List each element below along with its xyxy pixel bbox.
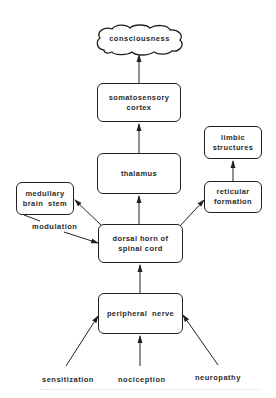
node-somatosensory-cortex: somatosensorycortex (97, 83, 181, 122)
node-text: thalamus (121, 169, 157, 179)
modulation-line (24, 215, 40, 221)
node-text: reticular (214, 187, 252, 197)
node-text: brain stem (23, 199, 67, 209)
node-reticular-formation: reticularformation (204, 181, 262, 213)
node-text: somatosensory (109, 93, 170, 103)
node-text: cortex (109, 103, 170, 113)
node-text: limbic (213, 133, 254, 143)
label-modulation: modulation (32, 222, 77, 231)
arrow-dorsal-to-reticular (180, 200, 204, 226)
arrow-neuropathy-to-peripheral (183, 315, 218, 365)
label-sensitization: sensitization (42, 375, 94, 384)
node-text: medullary (23, 189, 67, 199)
node-text: spinal cord (112, 244, 168, 254)
arrow-modulation-to-dorsal (64, 232, 98, 243)
label-neuropathy: neuropathy (195, 373, 241, 382)
node-text: formation (214, 197, 252, 207)
node-consciousness: consciousness (97, 34, 182, 43)
label-nociception: nociception (118, 375, 166, 384)
node-text: dorsal horn of (112, 234, 168, 244)
node-limbic-structures: limbicstructures (204, 126, 262, 159)
node-medullary-brain-stem: medullarybrain stem (16, 182, 74, 215)
arrow-sensitization-to-peripheral (66, 316, 98, 366)
node-peripheral-nerve: peripheral nerve (98, 293, 183, 334)
node-dorsal-horn: dorsal horn ofspinal cord (98, 224, 183, 263)
arrow-dorsal-to-medullary (75, 200, 102, 226)
node-text: peripheral nerve (107, 309, 174, 319)
node-thalamus: thalamus (97, 153, 181, 194)
node-text: structures (213, 143, 254, 153)
scan-artifact-line (40, 389, 260, 391)
